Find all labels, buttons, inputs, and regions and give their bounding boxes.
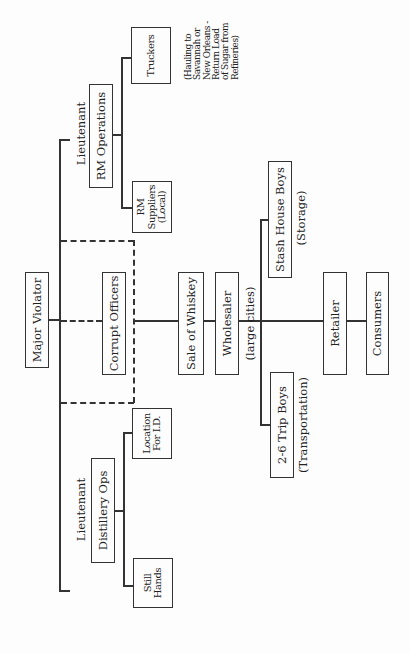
location-for-id-label: Location For I.D. [132,408,172,459]
connector-sale [134,320,178,322]
rm-suppliers-label: RM Suppliers (Local) [132,181,172,233]
wholesaler-label: Wholesaler [215,272,239,375]
stash-house-label: Stash House Boys [268,161,292,278]
dashed-bottom [61,402,134,404]
wholesaler-branch-line [260,219,262,425]
connector-trip-boys [260,424,270,426]
rm-operations-label: RM Operations [89,84,113,188]
sale-of-whiskey-label: Sale of Whiskey [178,272,204,375]
truckers-label: Truckers [131,27,171,84]
connector-lt-rm [59,139,70,141]
trunk-line [59,139,61,590]
lieutenant-distillery-title: Lieutenant [72,457,90,562]
retailer-label: Retailer [323,272,347,375]
distillery-branch-line [123,432,125,587]
connector-consumers [346,320,366,322]
dashed-top [61,240,134,242]
still-hands-label: Still Hands [133,558,173,608]
trip-boys-label: 2-6 Trip Boys [270,372,294,478]
connector-lt-distillery [59,590,70,592]
trip-boys-note: (Transportation) [294,372,312,478]
connector-still-hands [123,585,133,587]
connector-major-violator [48,319,60,321]
stash-house-note: (Storage) [292,188,310,248]
wholesaler-note: (large cities) [240,272,260,375]
truckers-note: (Hauling to Savannah or New Orleans - Re… [176,0,248,80]
dashed-connector-officers [61,320,102,322]
connector-wholesaler [204,320,215,322]
consumers-label: Consumers [366,272,389,375]
corrupt-officers-label: Corrupt Officers [102,272,126,375]
lieutenant-rm-title: Lieutenant [72,81,90,186]
distillery-ops-label: Distillery Ops [91,458,115,563]
major-violator-label: Major Violator [25,272,49,368]
rm-branch-line [121,57,123,209]
connector-rm-suppliers [121,207,132,209]
